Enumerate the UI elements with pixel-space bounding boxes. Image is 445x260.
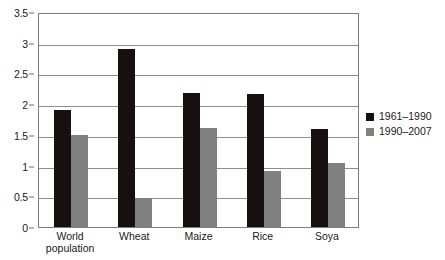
bar-group (54, 14, 88, 227)
y-tick-label: 3.5 (14, 8, 28, 19)
y-tick-label: 3 (22, 38, 28, 49)
y-tick-label: 2 (22, 100, 28, 111)
bar-group (183, 14, 217, 227)
y-tick-label: 1.5 (14, 131, 28, 142)
x-tick-label: World population (38, 230, 102, 254)
y-tick-mark (29, 228, 34, 229)
bar (135, 198, 152, 227)
y-tick-label: 0.5 (14, 192, 28, 203)
bar (54, 110, 71, 227)
legend-item: 1990–2007 (366, 125, 444, 138)
bar (118, 49, 135, 227)
y-tick-mark (29, 43, 34, 44)
legend-label: 1990–2007 (379, 126, 432, 137)
x-tick-label: Soya (295, 230, 359, 242)
y-tick-mark (29, 13, 34, 14)
bar-chart: 00.511.522.533.5 World populationWheatMa… (0, 0, 445, 260)
legend-swatch-icon (366, 113, 374, 121)
legend-item: 1961–1990 (366, 110, 444, 123)
y-axis: 00.511.522.533.5 (0, 13, 34, 228)
y-tick-mark (29, 197, 34, 198)
plot-area (38, 13, 359, 228)
y-tick-mark (29, 105, 34, 106)
bar (311, 129, 328, 227)
bars-layer (39, 14, 358, 227)
bar (71, 135, 88, 227)
x-axis: World populationWheatMaizeRiceSoya (38, 230, 359, 260)
y-tick-label: 2.5 (14, 69, 28, 80)
y-tick-label: 0 (22, 223, 28, 234)
y-tick-mark (29, 74, 34, 75)
x-tick-label: Rice (231, 230, 295, 242)
y-tick-mark (29, 166, 34, 167)
bar (200, 128, 217, 228)
x-tick-label: Wheat (102, 230, 166, 242)
x-tick-label: Maize (166, 230, 230, 242)
bar (183, 93, 200, 227)
legend: 1961–19901990–2007 (366, 110, 444, 140)
legend-swatch-icon (366, 128, 374, 136)
y-tick-label: 1 (22, 161, 28, 172)
bar (247, 94, 264, 227)
bar-group (118, 14, 152, 227)
legend-label: 1961–1990 (379, 111, 432, 122)
bar (264, 171, 281, 227)
bar (328, 163, 345, 228)
bar-group (247, 14, 281, 227)
y-tick-mark (29, 135, 34, 136)
bar-group (311, 14, 345, 227)
